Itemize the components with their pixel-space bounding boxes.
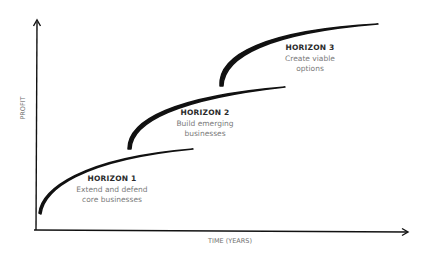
horizon-2-title: HORIZON 2 xyxy=(181,108,230,117)
horizon-3-line1: Create viable xyxy=(285,54,335,63)
horizon-3-title: HORIZON 3 xyxy=(286,43,335,52)
x-axis xyxy=(34,229,408,236)
horizon-2-label: HORIZON 2 Build emerging businesses xyxy=(176,108,233,138)
horizon-2-line2: businesses xyxy=(184,129,225,138)
horizon-1-label: HORIZON 1 Extend and defend core busines… xyxy=(76,174,148,204)
horizon-2-line1: Build emerging xyxy=(176,119,233,128)
horizon-2-curve xyxy=(128,87,285,149)
horizon-1-title: HORIZON 1 xyxy=(88,174,137,183)
three-horizons-diagram: HORIZON 1 Extend and defend core busines… xyxy=(0,0,426,255)
horizon-1-line1: Extend and defend xyxy=(76,185,148,194)
y-axis xyxy=(34,20,41,230)
horizon-3-line2: options xyxy=(296,64,324,73)
y-axis-label: PROFIT xyxy=(19,96,27,119)
horizon-1-line2: core businesses xyxy=(82,195,142,204)
horizon-3-label: HORIZON 3 Create viable options xyxy=(285,43,335,73)
x-axis-label: TIME (YEARS) xyxy=(207,237,252,245)
